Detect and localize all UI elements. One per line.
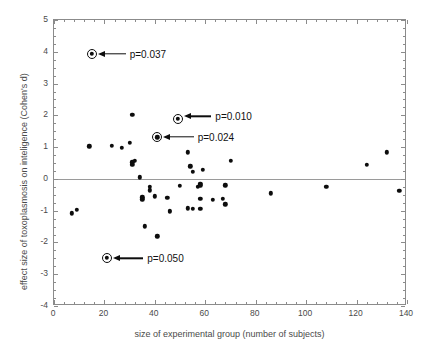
x-axis-tick	[316, 20, 317, 22]
y-axis-tick	[54, 36, 56, 37]
x-axis-tick	[236, 302, 237, 304]
data-point	[221, 197, 225, 201]
y-axis-tick	[403, 36, 405, 37]
data-point	[185, 206, 189, 210]
y-axis-tick	[54, 123, 56, 124]
data-point	[120, 146, 124, 150]
x-axis-tick	[94, 20, 95, 22]
y-axis-tick	[54, 139, 56, 140]
x-axis-tick	[145, 302, 146, 304]
y-axis-tick	[54, 99, 56, 100]
x-axis-tick	[145, 20, 146, 22]
x-axis-tick	[397, 302, 398, 304]
x-axis-tick	[125, 302, 126, 304]
x-axis-tick	[185, 20, 186, 22]
x-axis-tick	[387, 302, 388, 304]
data-point	[364, 163, 368, 167]
y-axis-tick	[54, 266, 56, 267]
y-axis-tick	[403, 131, 405, 132]
x-axis-tick	[387, 20, 388, 22]
y-axis-tick	[403, 195, 405, 196]
x-axis-tick	[326, 20, 327, 22]
y-axis-tick	[401, 242, 405, 243]
data-point	[168, 210, 172, 214]
y-tick-label: -1	[28, 205, 48, 215]
x-axis-tick	[256, 20, 257, 24]
y-axis-tick	[54, 44, 56, 45]
y-axis-tick	[54, 274, 58, 275]
x-axis-tick	[74, 20, 75, 22]
y-axis-tick	[403, 99, 405, 100]
annotation-label: p=0.024	[198, 131, 234, 142]
y-tick-label: -4	[28, 300, 48, 310]
x-axis-tick	[195, 20, 196, 22]
x-axis-tick	[175, 302, 176, 304]
x-axis-tick	[336, 302, 337, 304]
y-axis-tick	[401, 179, 405, 180]
x-tick-label: 40	[149, 308, 158, 318]
data-point	[74, 208, 78, 212]
x-axis-tick	[377, 302, 378, 304]
x-axis-tick	[225, 302, 226, 304]
y-axis-tick	[54, 219, 56, 220]
y-axis-tick	[403, 92, 405, 93]
y-axis-tick	[403, 163, 405, 164]
y-axis-tick	[54, 171, 56, 172]
x-axis-tick	[246, 20, 247, 22]
y-axis-tick	[403, 171, 405, 172]
x-axis-tick	[316, 302, 317, 304]
x-axis-tick	[64, 302, 65, 304]
x-axis-tick	[205, 20, 206, 24]
data-point	[198, 207, 202, 211]
x-axis-tick	[326, 302, 327, 304]
y-axis-tick	[401, 147, 405, 148]
y-axis-tick	[54, 179, 58, 180]
x-axis-tick	[135, 20, 136, 22]
y-axis-tick	[54, 147, 58, 148]
y-axis-tick	[403, 139, 405, 140]
y-axis-tick	[403, 282, 405, 283]
y-axis-tick	[54, 282, 56, 283]
y-axis-tick	[403, 227, 405, 228]
data-point	[385, 150, 389, 154]
annotation-leader-line	[105, 53, 126, 54]
x-axis-tick	[286, 20, 287, 22]
x-axis-tick	[346, 302, 347, 304]
y-axis-tick	[401, 115, 405, 116]
x-axis-tick	[215, 20, 216, 22]
y-axis-tick	[401, 274, 405, 275]
y-axis-tick	[403, 28, 405, 29]
data-point	[190, 170, 194, 174]
x-axis-tick	[185, 302, 186, 304]
y-axis-tick	[403, 250, 405, 251]
x-axis-tick	[165, 20, 166, 22]
y-axis-tick	[401, 306, 405, 307]
annotation-leader-line	[191, 116, 212, 117]
zero-reference-line	[54, 179, 405, 180]
x-tick-label: 60	[200, 308, 209, 318]
y-axis-tick	[403, 258, 405, 259]
y-axis-tick	[54, 195, 56, 196]
y-axis-tick	[403, 290, 405, 291]
x-axis-tick	[155, 300, 156, 304]
y-axis-tick	[403, 44, 405, 45]
y-tick-label: 2	[28, 109, 48, 119]
data-point	[165, 195, 169, 199]
x-axis-tick	[367, 20, 368, 22]
y-axis-tick	[403, 187, 405, 188]
x-axis-tick	[407, 20, 408, 24]
x-axis-tick	[246, 302, 247, 304]
x-axis-tick	[346, 20, 347, 22]
x-axis-tick	[165, 302, 166, 304]
x-axis-tick	[94, 302, 95, 304]
y-axis-tick	[54, 60, 56, 61]
y-axis-tick	[54, 187, 56, 188]
y-axis-tick	[54, 155, 56, 156]
y-axis-tick	[401, 52, 405, 53]
x-tick-label: 140	[399, 308, 413, 318]
x-axis-tick	[286, 302, 287, 304]
x-axis-tick	[195, 302, 196, 304]
y-tick-label: 5	[28, 14, 48, 24]
data-point	[132, 159, 136, 163]
data-point	[201, 167, 205, 171]
